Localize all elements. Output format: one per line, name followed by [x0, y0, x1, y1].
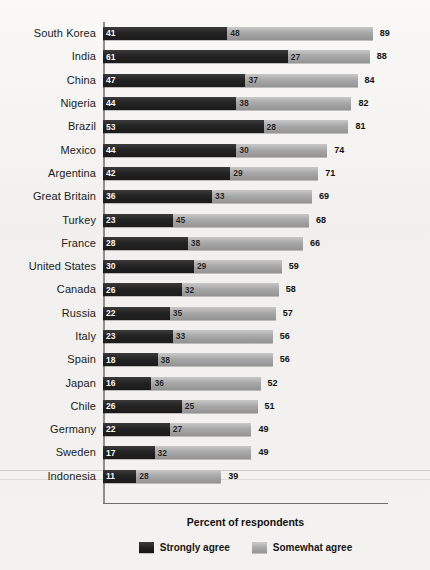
stacked-bar: 4229: [103, 167, 318, 180]
bar-area: 612788: [103, 45, 430, 68]
chart-row: Brazil532881: [0, 115, 430, 138]
bar-segment-somewhat-agree: 48: [227, 27, 372, 40]
legend-item-somewhat[interactable]: Somewhat agree: [252, 542, 352, 553]
chart-row: India612788: [0, 45, 430, 68]
stacked-bar: 6127: [103, 50, 370, 63]
bar-total-value: 52: [268, 379, 278, 388]
bar-segment-strongly-agree: 28: [103, 237, 188, 250]
segment-value: 36: [103, 192, 115, 201]
stacked-bar: 4438: [103, 97, 351, 110]
stacked-bar: 2632: [103, 283, 279, 296]
segment-value: 28: [136, 472, 148, 481]
bar-area: 223557: [103, 302, 430, 325]
bar-segment-somewhat-agree: 28: [136, 470, 221, 483]
bar-area: 183856: [103, 348, 430, 371]
bar-segment-strongly-agree: 11: [103, 470, 136, 483]
chart-row: France283866: [0, 232, 430, 255]
chart-row: Great Britain363369: [0, 185, 430, 208]
segment-value: 38: [236, 99, 248, 108]
bar-total-value: 71: [325, 169, 335, 178]
bar-segment-somewhat-agree: 29: [230, 167, 318, 180]
stacked-bar: 1838: [103, 353, 273, 366]
bar-segment-strongly-agree: 17: [103, 446, 155, 459]
bar-total-value: 68: [316, 216, 326, 225]
segment-value: 17: [103, 449, 115, 458]
bar-total-value: 74: [334, 146, 344, 155]
x-axis-line: [103, 503, 388, 504]
bar-area: 283866: [103, 232, 430, 255]
x-axis-title: Percent of respondents: [103, 516, 388, 528]
legend-item-strong[interactable]: Strongly agree: [139, 542, 230, 553]
category-label: Spain: [0, 354, 103, 365]
category-label: India: [0, 51, 103, 62]
stacked-bar: 1128: [103, 470, 221, 483]
segment-value: 44: [103, 146, 115, 155]
bar-segment-somewhat-agree: 32: [155, 446, 252, 459]
segment-value: 26: [103, 402, 115, 411]
bar-total-value: 69: [319, 192, 329, 201]
stacked-bar-chart: South Korea414889India612788China473784N…: [0, 0, 430, 570]
segment-value: 36: [151, 379, 163, 388]
bar-total-value: 39: [228, 472, 238, 481]
bar-segment-strongly-agree: 23: [103, 214, 173, 227]
segment-value: 53: [103, 123, 115, 132]
bar-area: 112839: [103, 465, 430, 488]
category-label: United States: [0, 261, 103, 272]
bar-total-value: 66: [310, 239, 320, 248]
segment-value: 23: [103, 332, 115, 341]
segment-value: 11: [103, 472, 115, 481]
chart-row: Indonesia112839: [0, 465, 430, 488]
bar-area: 262551: [103, 395, 430, 418]
chart-rows: South Korea414889India612788China473784N…: [0, 22, 430, 488]
legend-swatch-strong-icon: [139, 542, 154, 553]
bar-total-value: 89: [380, 29, 390, 38]
chart-row: Mexico443074: [0, 138, 430, 161]
chart-row: Argentina422971: [0, 162, 430, 185]
stacked-bar: 4430: [103, 144, 327, 157]
segment-value: 61: [103, 53, 115, 62]
bar-segment-somewhat-agree: 29: [194, 260, 282, 273]
bar-segment-strongly-agree: 22: [103, 423, 170, 436]
bar-segment-strongly-agree: 26: [103, 400, 182, 413]
chart-row: United States302959: [0, 255, 430, 278]
bar-area: 443882: [103, 92, 430, 115]
legend-label: Somewhat agree: [273, 542, 352, 553]
bar-segment-somewhat-agree: 38: [158, 353, 273, 366]
segment-value: 32: [155, 449, 167, 458]
segment-value: 48: [227, 29, 239, 38]
segment-value: 44: [103, 99, 115, 108]
bar-segment-strongly-agree: 41: [103, 27, 227, 40]
bar-area: 473784: [103, 69, 430, 92]
segment-value: 37: [245, 76, 257, 85]
segment-value: 30: [103, 262, 115, 271]
bar-segment-strongly-agree: 53: [103, 120, 264, 133]
bar-segment-strongly-agree: 36: [103, 190, 212, 203]
bar-segment-somewhat-agree: 38: [188, 237, 303, 250]
segment-value: 27: [288, 53, 300, 62]
chart-row: Sweden173249: [0, 441, 430, 464]
category-label: Chile: [0, 401, 103, 412]
bar-total-value: 81: [355, 122, 365, 131]
bar-area: 532881: [103, 115, 430, 138]
bar-total-value: 57: [283, 309, 293, 318]
bar-area: 422971: [103, 162, 430, 185]
bar-segment-somewhat-agree: 35: [170, 307, 276, 320]
bar-area: 173249: [103, 441, 430, 464]
segment-value: 33: [173, 332, 185, 341]
bar-area: 414889: [103, 22, 430, 45]
category-label: France: [0, 238, 103, 249]
stacked-bar: 3633: [103, 190, 312, 203]
category-label: Sweden: [0, 447, 103, 458]
chart-row: Turkey234568: [0, 208, 430, 231]
segment-value: 25: [182, 402, 194, 411]
segment-value: 30: [236, 146, 248, 155]
category-label: Great Britain: [0, 191, 103, 202]
bar-segment-somewhat-agree: 38: [236, 97, 351, 110]
bar-total-value: 59: [289, 262, 299, 271]
legend-swatch-somewhat-icon: [252, 542, 267, 553]
bar-area: 302959: [103, 255, 430, 278]
segment-value: 26: [103, 286, 115, 295]
segment-value: 33: [212, 192, 224, 201]
bar-area: 234568: [103, 208, 430, 231]
stacked-bar: 2333: [103, 330, 273, 343]
